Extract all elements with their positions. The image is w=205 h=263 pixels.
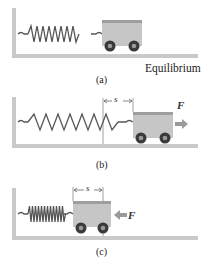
wall xyxy=(12,188,16,240)
equilibrium-label: Equilibrium xyxy=(145,62,201,74)
caption-b: (b) xyxy=(96,159,108,170)
floor xyxy=(12,144,198,148)
wall xyxy=(12,8,16,58)
spring xyxy=(18,114,133,130)
floor xyxy=(12,54,198,58)
panel-b xyxy=(12,97,198,148)
displacement-marker xyxy=(104,99,132,103)
displacement-label-b: s xyxy=(114,94,118,104)
wall xyxy=(12,97,16,147)
force-label-c: F xyxy=(128,209,135,221)
displacement-label-c: s xyxy=(86,183,90,193)
panel-c xyxy=(12,187,198,240)
floor xyxy=(12,236,198,240)
force-arrow-left xyxy=(114,210,127,220)
panel-a xyxy=(12,8,198,58)
force-arrow-right xyxy=(175,119,188,129)
cart xyxy=(133,112,173,144)
cart xyxy=(102,20,142,52)
force-label-b: F xyxy=(177,99,184,111)
spring-cart-diagram xyxy=(0,0,205,263)
caption-a: (a) xyxy=(96,74,107,85)
caption-c: (c) xyxy=(96,246,107,257)
cart xyxy=(73,201,111,234)
spring xyxy=(18,26,102,42)
spring-compressed xyxy=(18,206,73,222)
